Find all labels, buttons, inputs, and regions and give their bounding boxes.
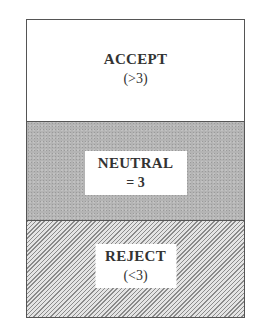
decision-scale-box: ACCEPT (>3) NEUTRAL = 3 REJECT (<3) — [26, 19, 245, 318]
neutral-label: NEUTRAL = 3 — [85, 151, 187, 195]
reject-title: REJECT — [103, 247, 168, 266]
accept-label: ACCEPT (>3) — [104, 50, 167, 88]
reject-region: REJECT (<3) — [27, 221, 244, 317]
reject-condition: (<3) — [103, 266, 168, 285]
accept-region: ACCEPT (>3) — [27, 20, 244, 122]
neutral-region: NEUTRAL = 3 — [27, 122, 244, 221]
neutral-title: NEUTRAL — [93, 154, 179, 173]
neutral-condition: = 3 — [93, 173, 179, 192]
reject-label: REJECT (<3) — [95, 244, 176, 288]
accept-title: ACCEPT — [104, 50, 167, 69]
accept-condition: (>3) — [104, 69, 167, 88]
